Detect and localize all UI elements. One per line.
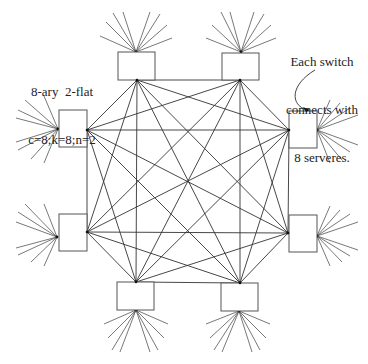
- mesh-link: [137, 80, 289, 130]
- topology-params: c=8;k=8;n=2: [16, 132, 108, 148]
- server-link: [44, 204, 57, 237]
- topology-name: 8-ary 2-flat: [16, 84, 108, 100]
- switch-top-left: [118, 52, 155, 80]
- server-link: [241, 38, 276, 52]
- server-link: [317, 236, 358, 250]
- diagram-canvas: 8-ary 2-flat c=8;k=8;n=2 Each switch con…: [0, 0, 368, 364]
- note-line-2: connects with: [276, 102, 368, 118]
- mesh-link: [137, 80, 288, 233]
- topology-label: 8-ary 2-flat c=8;k=8;n=2: [16, 52, 108, 180]
- note-line-3: 8 serveres.: [276, 150, 368, 166]
- server-link: [25, 204, 57, 237]
- mesh-link: [136, 233, 288, 282]
- switch-bottom-right: [221, 283, 258, 311]
- server-link: [136, 38, 172, 52]
- server-link: [100, 36, 136, 52]
- server-link: [221, 12, 241, 52]
- server-link: [212, 25, 241, 52]
- switch-note: Each switch connects with 8 serveres.: [276, 22, 368, 198]
- port-dot-icon: [239, 282, 242, 285]
- switch-bottom-left: [117, 282, 154, 310]
- mesh-link: [87, 232, 288, 233]
- mesh-link: [136, 130, 289, 282]
- switch-left-lower: [59, 214, 87, 251]
- server-link: [317, 236, 330, 266]
- switch-top-right: [222, 53, 259, 80]
- server-link: [230, 12, 241, 52]
- server-link: [44, 237, 57, 266]
- server-link: [206, 38, 241, 52]
- mesh-link: [87, 130, 240, 283]
- server-link: [239, 311, 270, 324]
- mesh-link: [87, 80, 240, 130]
- port-dot-icon: [86, 231, 89, 234]
- port-dot-icon: [135, 281, 138, 284]
- server-link: [222, 311, 239, 352]
- switch-mesh-links: [87, 80, 289, 283]
- port-dot-icon: [56, 236, 59, 239]
- mesh-link: [87, 80, 240, 232]
- switch-right-lower: [289, 215, 317, 252]
- port-dot-icon: [239, 79, 242, 82]
- server-link: [136, 310, 164, 338]
- server-link: [136, 14, 160, 52]
- port-dot-icon: [136, 79, 139, 82]
- note-line-1: Each switch: [276, 54, 368, 70]
- mesh-link: [87, 232, 240, 283]
- mesh-link: [136, 80, 137, 282]
- port-dot-icon: [287, 232, 290, 235]
- server-link: [136, 310, 168, 324]
- server-link: [241, 14, 264, 52]
- mesh-link: [87, 232, 136, 282]
